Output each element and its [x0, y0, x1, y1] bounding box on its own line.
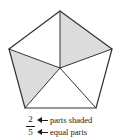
- numerator-caption: parts shaded: [50, 115, 92, 125]
- pentagon-diagram: [0, 0, 120, 114]
- caption-rows: parts shaded equal parts: [37, 114, 92, 138]
- left-arrow-icon: [37, 117, 48, 124]
- fraction-2-over-5: 2 5: [26, 114, 35, 139]
- fraction-numerator: 2: [28, 114, 33, 126]
- denominator-caption: equal parts: [50, 127, 87, 137]
- fraction-figure: 2 5 parts shaded equal parts: [0, 0, 120, 140]
- denominator-caption-row: equal parts: [37, 126, 92, 138]
- left-arrow-icon: [37, 129, 48, 136]
- fraction-denominator: 5: [28, 127, 33, 139]
- numerator-caption-row: parts shaded: [37, 114, 92, 126]
- fraction-label-block: 2 5 parts shaded equal parts: [0, 112, 120, 140]
